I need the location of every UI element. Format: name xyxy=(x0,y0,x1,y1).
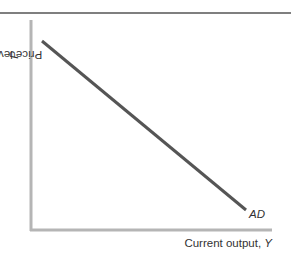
ad-curve xyxy=(42,41,246,210)
ad-curve-label: AD xyxy=(249,208,265,220)
x-axis-label: Current output, Y xyxy=(184,237,272,249)
diagram-canvas xyxy=(0,0,291,258)
ad-diagram: Price level, P Current output, Y AD xyxy=(0,0,291,258)
y-axis-label: Price level, P xyxy=(4,20,24,90)
